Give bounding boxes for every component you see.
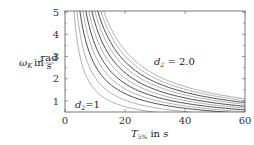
x-tick-label: 60 (239, 115, 252, 126)
annotation-d2-low: d2=1 (75, 99, 100, 111)
curve-d2-2-0 (101, 3, 247, 99)
x-tick-label: 0 (62, 115, 68, 126)
svg-text:d2 = 2.0: d2 = 2.0 (154, 56, 195, 68)
y-tick-label: 5 (53, 7, 59, 18)
svg-text:ωK: ωK (19, 57, 33, 70)
curve-d2-1-4 (83, 0, 247, 110)
svg-text:T5% in s: T5% in s (131, 128, 168, 140)
x-tick-label: 40 (179, 115, 192, 126)
y-tick-label: 4 (53, 29, 59, 40)
x-tick-label: 20 (119, 115, 132, 126)
y-axis-label: ωK in rad s (19, 52, 58, 71)
y-tick-label: 2 (53, 73, 59, 84)
curve-d2-1-7 (92, 0, 247, 104)
x-axis-label: T5% in s (131, 128, 168, 140)
svg-text:d2=1: d2=1 (75, 99, 100, 111)
y-tick-label: 1 (53, 96, 59, 107)
annotation-d2-high: d2 = 2.0 (154, 56, 195, 68)
chart: 12345 0204060 ωK in rad s T5% in s d2=1 … (0, 0, 254, 145)
curve-d2-1-8 (95, 1, 247, 103)
svg-text:s: s (46, 60, 51, 71)
